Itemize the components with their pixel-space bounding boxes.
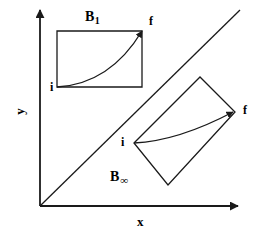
identity-diagonal-line: [40, 10, 240, 206]
region-b1-label-subscript: 1: [94, 15, 100, 26]
region-b1-start-label: i: [50, 81, 53, 93]
region-binf-label-subscript: ∞: [119, 174, 127, 186]
region-binf-label: B∞: [110, 170, 128, 186]
region-binf-end-label: f: [243, 104, 247, 116]
region-binf-start-label: i: [121, 136, 124, 148]
region-binf-rectangle: [134, 77, 235, 185]
region-b1-rectangle: [57, 31, 142, 87]
y-axis-label: y: [13, 108, 26, 115]
region-b1-end-label: f: [149, 15, 153, 27]
region-b1-trajectory-curve: [57, 31, 142, 87]
figure-canvas: x y B1 i f B∞ i f: [0, 0, 266, 238]
figure-drawing: [0, 0, 266, 238]
x-axis-label: x: [137, 215, 144, 228]
region-b1-label-base: B: [85, 9, 94, 24]
region-b1-label: B1: [85, 10, 100, 26]
region-binf-label-base: B: [110, 169, 119, 184]
